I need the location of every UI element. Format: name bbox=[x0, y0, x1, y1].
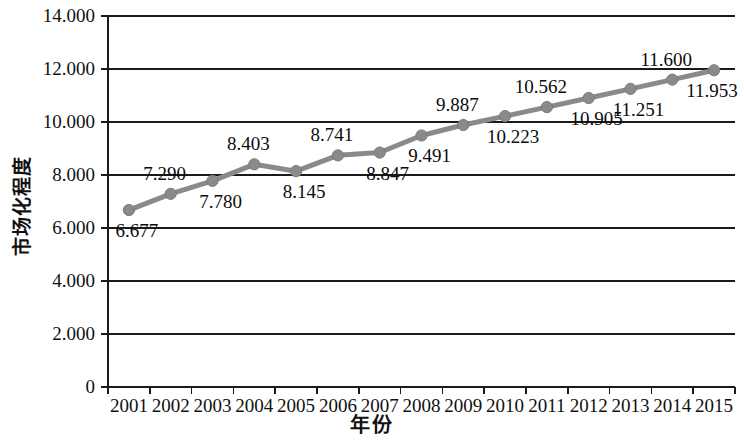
data-point-value-label: 9.491 bbox=[398, 146, 462, 165]
x-axis-tick-label: 2014 bbox=[649, 396, 695, 415]
data-point-value-label: 11.953 bbox=[680, 81, 744, 100]
x-axis-tick-label: 2015 bbox=[691, 396, 737, 415]
x-axis-tick-label: 2012 bbox=[566, 396, 612, 415]
data-point-value-label: 9.887 bbox=[425, 95, 489, 114]
x-axis-tick-label: 2003 bbox=[190, 396, 236, 415]
data-point-value-label: 10.223 bbox=[481, 127, 545, 146]
data-point-value-label: 10.562 bbox=[509, 77, 573, 96]
y-axis-tick-label: 14.000 bbox=[0, 6, 95, 25]
y-axis-tick-label: 12.000 bbox=[0, 59, 95, 78]
y-axis-ticks bbox=[101, 16, 108, 387]
data-point-value-label: 11.600 bbox=[634, 50, 698, 69]
data-point-value-label: 8.741 bbox=[300, 125, 364, 144]
x-axis-tick-label: 2009 bbox=[440, 396, 486, 415]
y-axis-tick-label: 4.000 bbox=[0, 271, 95, 290]
data-point-value-label: 8.847 bbox=[356, 164, 420, 183]
y-axis-title: 市场化程度 bbox=[12, 146, 32, 266]
x-axis-tick-label: 2013 bbox=[608, 396, 654, 415]
data-point-value-label: 7.290 bbox=[133, 164, 197, 183]
x-axis-tick-label: 2001 bbox=[106, 396, 152, 415]
y-axis-tick-label: 2.000 bbox=[0, 324, 95, 343]
y-axis-tick-label: 0 bbox=[0, 377, 95, 396]
x-axis-tick-label: 2002 bbox=[148, 396, 194, 415]
y-axis-tick-label: 10.000 bbox=[0, 112, 95, 131]
market-degree-line-chart: 14.00012.00010.0008.0006.0004.0002.0000 … bbox=[0, 0, 744, 443]
x-axis-tick-label: 2010 bbox=[482, 396, 528, 415]
x-axis-tick-label: 2004 bbox=[231, 396, 277, 415]
x-axis-ticks bbox=[108, 387, 735, 394]
data-point-value-label: 8.403 bbox=[216, 134, 280, 153]
data-point-value-label: 8.145 bbox=[272, 182, 336, 201]
data-point-value-label: 6.677 bbox=[105, 221, 169, 240]
x-axis-tick-label: 2008 bbox=[399, 396, 445, 415]
x-axis-tick-label: 2011 bbox=[524, 396, 570, 415]
x-axis-title: 年份 bbox=[0, 414, 744, 436]
data-point-value-label: 11.251 bbox=[607, 100, 671, 119]
data-point-value-label: 7.780 bbox=[189, 192, 253, 211]
x-axis-tick-label: 2005 bbox=[273, 396, 319, 415]
